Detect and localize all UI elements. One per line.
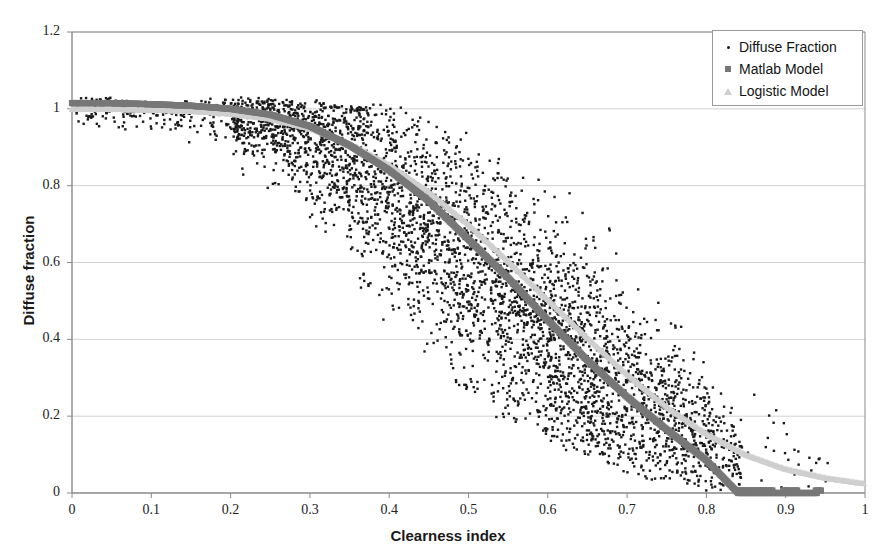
- legend-label: Matlab Model: [739, 61, 823, 77]
- x-tick-label: 0.6: [528, 502, 568, 518]
- y-tick-label: 0.4: [20, 330, 60, 346]
- legend-label: Logistic Model: [739, 83, 829, 99]
- legend-item-diffuse-fraction[interactable]: Diffuse Fraction: [721, 36, 856, 58]
- triangle-icon: [721, 88, 735, 95]
- chart-figure: Diffuse fraction Clearness index 00.10.2…: [0, 0, 896, 559]
- x-tick-label: 0.2: [211, 502, 251, 518]
- x-tick-label: 0.8: [686, 502, 726, 518]
- series-diffuse-fraction: [75, 96, 828, 491]
- legend-item-matlab-model[interactable]: Matlab Model: [721, 58, 856, 80]
- y-tick-label: 1: [20, 100, 60, 116]
- x-axis-title: Clearness index: [0, 527, 896, 544]
- x-tick-label: 0.3: [290, 502, 330, 518]
- x-tick-label: 0.7: [607, 502, 647, 518]
- y-tick-label: 0.8: [20, 177, 60, 193]
- x-tick-label: 0: [52, 502, 92, 518]
- y-tick-label: 0.2: [20, 407, 60, 423]
- x-tick-label: 0.1: [131, 502, 171, 518]
- series-logistic-model: [69, 106, 867, 487]
- dot-icon: [721, 46, 735, 49]
- x-tick-label: 1: [845, 502, 885, 518]
- y-tick-label: 1.2: [20, 23, 60, 39]
- square-icon: [721, 66, 735, 72]
- x-tick-label: 0.5: [449, 502, 489, 518]
- y-tick-label: 0: [20, 484, 60, 500]
- chart-legend: Diffuse Fraction Matlab Model Logistic M…: [712, 30, 863, 106]
- x-tick-label: 0.4: [369, 502, 409, 518]
- x-tick-label: 0.9: [766, 502, 806, 518]
- y-tick-label: 0.6: [20, 254, 60, 270]
- legend-label: Diffuse Fraction: [739, 39, 837, 55]
- legend-item-logistic-model[interactable]: Logistic Model: [721, 80, 856, 102]
